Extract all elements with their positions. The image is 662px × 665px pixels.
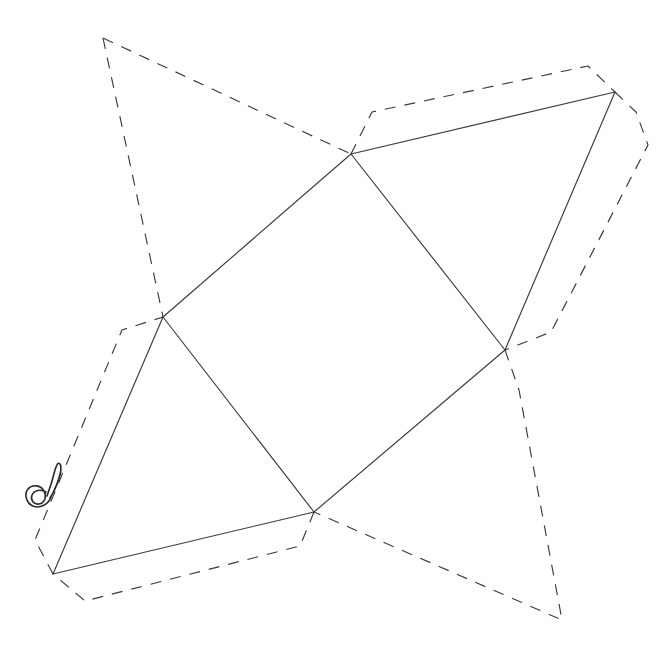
solid-edges-group <box>53 92 615 574</box>
edge-left-center-to-bottom-center <box>163 317 314 512</box>
edge-right-center-to-bottom-center <box>314 350 505 512</box>
dashed-bottom-flap <box>53 512 314 601</box>
edge-top-center-to-right-center <box>351 154 505 350</box>
edge-bottom-center-to-bottom-left <box>53 512 314 574</box>
dashed-top-left-flap <box>103 38 351 154</box>
dashed-upper-right-flap <box>351 66 615 154</box>
edge-top-center-to-top-right <box>351 92 615 154</box>
edge-top-center-to-left-center <box>163 154 351 317</box>
dashed-left-flap <box>35 317 163 574</box>
diagram-canvas <box>0 0 662 665</box>
edge-top-right-to-right-center <box>505 92 615 350</box>
dashed-flaps-group <box>35 38 648 620</box>
dashed-right-flap <box>505 92 648 350</box>
spiral-curl-mark <box>26 463 61 507</box>
edge-left-center-to-bottom-left <box>53 317 163 574</box>
dashed-bottom-right-flap <box>314 350 562 620</box>
dashed-top-left-flap-side <box>103 38 163 317</box>
geometric-net-drawing <box>0 0 662 665</box>
